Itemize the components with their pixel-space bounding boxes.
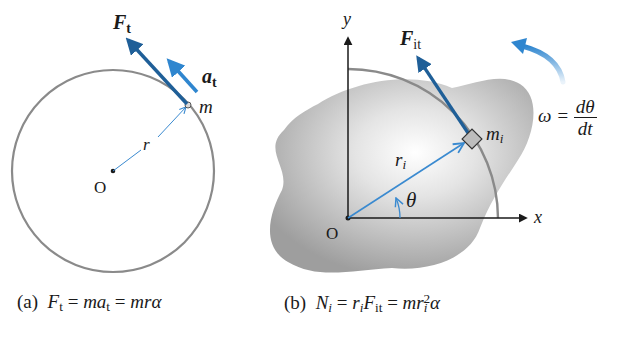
force-ft-symbol: F [113,11,126,33]
caption-b: (b) Ni = riFit = mri2α [284,291,440,316]
figure-b [270,38,563,273]
omega-denominator: dt [578,118,593,138]
accel-at-label: at [202,66,217,90]
caption-a-lhs: F [48,291,60,312]
caption-a-mid: ma [83,291,106,312]
accel-at-symbol: a [202,65,212,87]
omega-rotation-arrow [522,46,563,82]
caption-b-mr: mr [403,292,424,313]
caption-b-eq1: = [337,292,348,313]
force-ft-subscript: t [126,21,131,36]
rigid-body-blob [270,79,534,273]
omega-lhs: ω = [538,105,569,126]
caption-b-lhs-sub: i [328,300,332,315]
force-fit-label: Fit [400,28,421,52]
radius-ri-label: ri [395,150,406,172]
origin-o-label-b: O [326,225,338,242]
caption-b-eq2: = [387,292,398,313]
radius-line [113,150,141,171]
y-axis-label: y [343,10,351,28]
radius-r-label: r [143,136,150,153]
radius-ri-subscript: i [402,157,406,172]
caption-a-lhs-sub: t [59,299,63,314]
mass-mi-label: mi [486,124,503,146]
x-axis-label: x [534,208,542,226]
force-fit-symbol: F [400,27,413,49]
omega-fraction: dθ dt [574,97,597,138]
caption-b-lhs: N [316,292,329,313]
omega-arrowhead [511,38,527,54]
mass-mi-symbol: m [486,123,500,144]
accel-at-subscript: t [212,75,217,90]
force-fit-subscript: it [413,37,421,52]
caption-b-f: F [363,292,375,313]
caption-a-rhs: mrα [130,291,161,312]
caption-a: (a) Ft = mat = mrα [17,291,161,315]
caption-b-f-sub: it [375,300,382,315]
caption-a-eq1: = [68,291,79,312]
mass-m-label: m [199,97,213,116]
caption-b-r: r [352,292,359,313]
omega-numerator: dθ [574,97,597,118]
force-ft-label: Ft [113,12,131,36]
caption-b-tag: (b) [284,292,306,313]
caption-a-tag: (a) [17,291,38,312]
origin-o-label-a: O [94,179,106,196]
theta-label: θ [406,190,416,211]
caption-a-eq2: = [115,291,126,312]
radius-line-upper [158,107,186,137]
caption-b-alpha: α [430,292,440,313]
caption-a-mid-sub: t [106,299,110,314]
omega-equation: ω = dθ dt [538,97,597,138]
mass-mi-subscript: i [500,131,504,146]
figure-a [12,40,214,272]
